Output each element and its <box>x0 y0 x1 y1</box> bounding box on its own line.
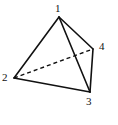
vertex-label-3: 3 <box>86 96 92 107</box>
vertex-label-2: 2 <box>2 72 8 83</box>
edge-1-2 <box>14 17 59 78</box>
edge-2-3 <box>14 78 90 92</box>
edge-3-4 <box>90 49 93 92</box>
vertex-label-1: 1 <box>55 3 61 14</box>
tetrahedron-drawing <box>0 0 118 125</box>
edge-1-4 <box>59 17 93 49</box>
tetrahedron-figure: 1 2 3 4 <box>0 0 118 125</box>
vertex-label-4: 4 <box>99 41 105 52</box>
edge-2-4-dashed <box>14 49 93 78</box>
edge-1-3 <box>59 17 90 92</box>
